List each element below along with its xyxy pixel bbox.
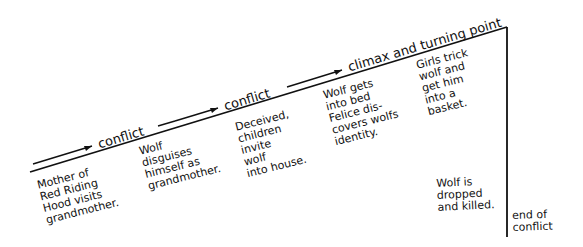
arrow-3: [287, 70, 342, 87]
arrow-2: [175, 108, 218, 121]
event-6: Wolf is dropped and killed.: [436, 175, 495, 214]
arrow-1-tail: [158, 121, 175, 126]
end-of-conflict-label: end of conflict: [512, 209, 553, 234]
